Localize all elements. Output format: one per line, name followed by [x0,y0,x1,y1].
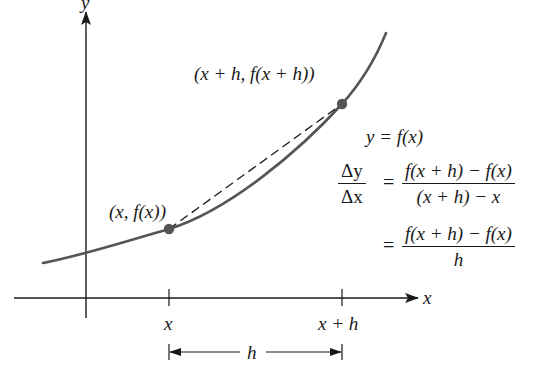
tick-label-x: x [164,314,172,333]
secant-line [169,104,342,229]
point-label-xh-fxh: (x + h, f(x + h)) [194,64,315,83]
point-xh-fxh [337,99,347,109]
point-x-fx [164,224,174,234]
difference-quotient-1: f(x + h) − f(x) (x + h) − x [402,161,515,207]
delta-fraction: Δy Δx [338,161,366,207]
y-axis-label: y [81,0,89,12]
tick-label-x-plus-h: x + h [318,314,358,333]
numerator-2: f(x + h) − f(x) [402,224,515,247]
delta-y: Δy [338,161,366,184]
denominator-2: h [454,247,464,270]
difference-quotient-2: f(x + h) − f(x) h [402,224,515,270]
delta-x: Δx [341,184,363,207]
function-label: y = f(x) [366,127,423,146]
point-label-x-fx: (x, f(x)) [109,202,166,221]
denominator-1: (x + h) − x [417,184,501,207]
x-axis-label: x [423,288,431,307]
equals-sign-1: = [383,171,394,194]
numerator-1: f(x + h) − f(x) [402,161,515,184]
equals-sign-2: = [383,234,394,257]
interval-label-h: h [247,343,257,362]
